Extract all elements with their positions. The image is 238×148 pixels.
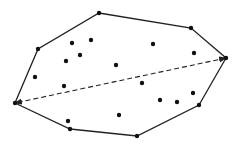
- hull-vertex-point: [197, 103, 201, 107]
- interior-points: [33, 38, 196, 123]
- interior-point: [158, 98, 162, 102]
- interior-point: [78, 53, 82, 57]
- interior-point: [151, 42, 155, 46]
- interior-point: [70, 41, 74, 45]
- interior-point: [64, 59, 68, 63]
- diameter-arrow: [15, 58, 226, 103]
- hull-vertex-point: [36, 47, 40, 51]
- hull-vertex-point: [224, 56, 228, 60]
- interior-point: [117, 113, 121, 117]
- hull-vertex-point: [13, 101, 17, 105]
- convex-hull-polygon: [15, 13, 226, 136]
- interior-point: [89, 38, 93, 42]
- interior-point: [33, 75, 37, 79]
- hull-vertex-point: [68, 127, 72, 131]
- convex-hull-diagram: [0, 0, 238, 148]
- interior-point: [175, 100, 179, 104]
- hull-vertex-point: [135, 134, 139, 138]
- interior-point: [192, 51, 196, 55]
- interior-point: [62, 84, 66, 88]
- interior-point: [66, 119, 70, 123]
- hull-vertex-point: [189, 26, 193, 30]
- interior-point: [140, 81, 144, 85]
- interior-point: [114, 63, 118, 67]
- hull-vertices: [13, 11, 228, 138]
- hull-vertex-point: [97, 11, 101, 15]
- interior-point: [191, 91, 195, 95]
